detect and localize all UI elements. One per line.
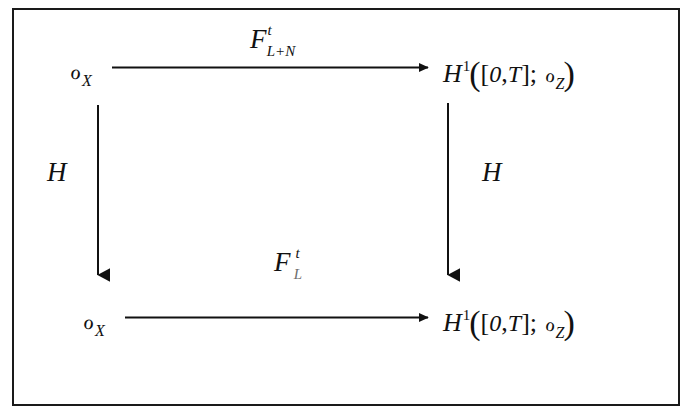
close-paren: ) xyxy=(563,55,574,92)
interval-t: T xyxy=(508,310,521,336)
subscript-x: X xyxy=(95,322,105,339)
label-subscript-lplusn: L+N xyxy=(267,43,295,59)
open-paren: ( xyxy=(469,55,480,92)
cohomology-h: H xyxy=(443,308,462,337)
node-top-right-object: H1([0,T]; ℴZ) xyxy=(443,54,575,88)
label-subscript-l: L xyxy=(294,266,302,282)
close-bracket: ] xyxy=(521,59,530,88)
close-paren: ) xyxy=(563,304,574,341)
label-base-f: F xyxy=(274,247,291,277)
cohomology-h: H xyxy=(443,59,462,88)
subscript-x: X xyxy=(82,72,92,89)
semicolon: ; xyxy=(530,308,538,337)
arrow-bottom-label: FtL xyxy=(274,249,303,276)
interval-zero: 0 xyxy=(489,61,501,87)
script-o-glyph: ℴ xyxy=(545,62,555,87)
commutative-diagram-figure: ℴX H1([0,T]; ℴZ) ℴX H1([0,T]; ℴZ) FtL+N … xyxy=(0,0,694,419)
interval-zero: 0 xyxy=(489,310,501,336)
open-bracket: [ xyxy=(481,308,490,337)
arrow-right-label: H xyxy=(482,159,502,186)
script-o-glyph: ℴ xyxy=(545,311,555,336)
label-superscript-t: t xyxy=(268,22,272,38)
arrow-left-label: H xyxy=(47,159,67,186)
node-bottom-right-object: H1([0,T]; ℴZ) xyxy=(443,303,575,337)
label-h: H xyxy=(482,157,502,187)
label-base-f: F xyxy=(250,24,267,54)
arrow-top-label: FtL+N xyxy=(250,26,299,53)
close-bracket: ] xyxy=(521,308,530,337)
diagram-arrows-layer xyxy=(0,0,694,419)
node-top-left-object: ℴX xyxy=(70,58,91,83)
node-bottom-left-object: ℴX xyxy=(83,308,104,333)
open-paren: ( xyxy=(469,304,480,341)
open-bracket: [ xyxy=(481,59,490,88)
interval-t: T xyxy=(508,61,521,87)
semicolon: ; xyxy=(530,59,538,88)
script-o-glyph: ℴ xyxy=(70,57,81,85)
label-h: H xyxy=(47,157,67,187)
label-superscript-t: t xyxy=(296,245,300,261)
script-o-glyph: ℴ xyxy=(83,307,94,335)
